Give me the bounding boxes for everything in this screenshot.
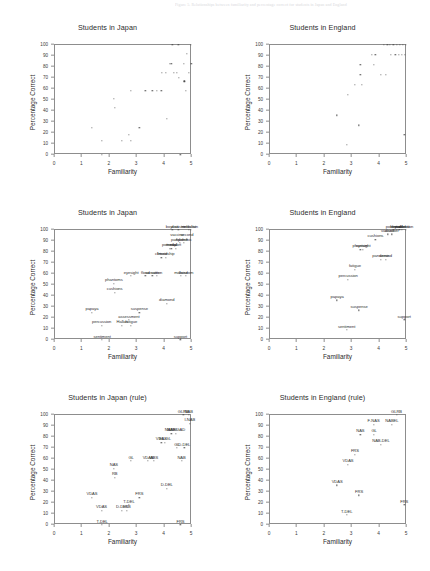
data-point bbox=[375, 54, 376, 55]
data-point bbox=[354, 84, 355, 85]
data-point bbox=[113, 468, 114, 469]
data-point bbox=[152, 276, 153, 277]
x-tick-label: 2 bbox=[322, 531, 325, 536]
point-label: NAB bbox=[177, 455, 185, 460]
data-point bbox=[139, 497, 140, 498]
data-point bbox=[188, 72, 189, 73]
data-point bbox=[156, 91, 157, 92]
point-label: NAB/GAD bbox=[167, 427, 185, 432]
y-axis: 0102030405060708090100 bbox=[28, 229, 54, 339]
x-axis-label: Familiarity bbox=[54, 168, 191, 175]
point-label: EL-GL bbox=[159, 436, 171, 441]
data-point bbox=[402, 44, 403, 45]
x-tick-mark bbox=[163, 339, 164, 342]
x-tick-mark bbox=[269, 154, 270, 157]
data-point bbox=[148, 461, 149, 462]
x-tick-label: 5 bbox=[190, 346, 193, 351]
data-point bbox=[401, 54, 402, 55]
y-tick-label: 80 bbox=[258, 64, 263, 69]
data-point bbox=[399, 44, 400, 45]
data-point bbox=[395, 54, 396, 55]
data-point bbox=[380, 74, 381, 75]
y-axis-label-holder: Percentage Correct bbox=[223, 414, 237, 524]
x-tick-label: 0 bbox=[268, 346, 271, 351]
y-axis: 0102030405060708090100 bbox=[243, 414, 269, 524]
x-tick-mark bbox=[163, 524, 164, 527]
x-axis-label: Familiarity bbox=[269, 168, 406, 175]
x-tick-label: 5 bbox=[405, 161, 408, 166]
data-point bbox=[180, 276, 181, 277]
data-point bbox=[183, 243, 184, 244]
x-tick-label: 0 bbox=[268, 531, 271, 536]
y-tick-label: 0 bbox=[45, 152, 48, 157]
y-tick-label: 80 bbox=[43, 249, 48, 254]
data-point bbox=[375, 239, 376, 240]
point-label: I-NAB bbox=[184, 417, 195, 422]
data-point bbox=[145, 276, 146, 277]
y-tick-label: 100 bbox=[40, 227, 48, 232]
data-point bbox=[360, 64, 361, 65]
plot-area: papayasentimentpercussionfatiguesuspense… bbox=[269, 229, 406, 339]
x-tick-mark bbox=[269, 339, 270, 342]
plot-area bbox=[54, 44, 191, 154]
x-tick-mark bbox=[81, 339, 82, 342]
point-label: fatigue bbox=[349, 263, 361, 268]
x-tick-label: 5 bbox=[405, 346, 408, 351]
chart-panel-japan-plain: Students in JapanPercentage Correct01020… bbox=[0, 18, 215, 203]
chart-title: Students in England (rule) bbox=[215, 393, 430, 402]
data-point bbox=[404, 135, 405, 136]
y-tick-label: 20 bbox=[43, 130, 48, 135]
x-tick-mark bbox=[54, 154, 55, 157]
x-tick-label: 3 bbox=[135, 346, 138, 351]
point-label: F-NAS bbox=[368, 418, 380, 423]
data-point bbox=[185, 276, 186, 277]
point-label: phantoms bbox=[105, 277, 123, 282]
data-point bbox=[91, 312, 92, 313]
point-label: fatigue bbox=[125, 319, 137, 324]
x-tick-label: 5 bbox=[190, 161, 193, 166]
data-point bbox=[166, 488, 167, 489]
x-tick-label: 0 bbox=[53, 346, 56, 351]
figure-page: Figure 5. Relationships between familiar… bbox=[0, 0, 430, 571]
x-tick-label: 3 bbox=[135, 161, 138, 166]
chart-panel-england-words: Students in EnglandPercentage Correct010… bbox=[215, 203, 430, 388]
y-tick-label: 0 bbox=[260, 152, 263, 157]
data-point bbox=[161, 72, 162, 73]
point-label: GL bbox=[128, 455, 133, 460]
y-tick-label: 50 bbox=[258, 467, 263, 472]
y-tick-label: 0 bbox=[45, 522, 48, 527]
x-tick-mark bbox=[81, 524, 82, 527]
data-point bbox=[139, 127, 140, 128]
x-tick-mark bbox=[378, 154, 379, 157]
y-tick-label: 30 bbox=[258, 119, 263, 124]
x-tick-mark bbox=[406, 339, 407, 342]
chart-title: Students in England bbox=[215, 23, 430, 32]
data-point bbox=[101, 325, 102, 326]
data-point bbox=[176, 72, 177, 73]
data-point bbox=[371, 54, 372, 55]
y-tick-label: 20 bbox=[43, 500, 48, 505]
data-point bbox=[347, 464, 348, 465]
x-tick-label: 4 bbox=[377, 346, 380, 351]
plot-area: VDAST-DELVDASFRSFRSNASF-NASGLNAB-DELNABE… bbox=[269, 414, 406, 524]
data-point bbox=[131, 91, 132, 92]
y-tick-label: 30 bbox=[43, 489, 48, 494]
y-axis: 0102030405060708090100 bbox=[243, 44, 269, 154]
data-point bbox=[189, 423, 190, 424]
point-label: second bbox=[181, 232, 194, 237]
point-label: freedom bbox=[179, 270, 194, 275]
y-tick-label: 30 bbox=[258, 489, 263, 494]
x-tick-label: 5 bbox=[190, 531, 193, 536]
x-tick-mark bbox=[351, 339, 352, 342]
data-point bbox=[121, 325, 122, 326]
y-tick-label: 0 bbox=[260, 522, 263, 527]
data-point bbox=[114, 477, 115, 478]
data-point bbox=[172, 44, 173, 45]
y-tick-label: 70 bbox=[43, 75, 48, 80]
data-point bbox=[393, 44, 394, 45]
y-tick-label: 80 bbox=[43, 434, 48, 439]
data-point bbox=[172, 229, 173, 230]
data-point bbox=[358, 125, 359, 126]
chart-panel-england-plain: Students in EnglandPercentage Correct010… bbox=[215, 18, 430, 203]
point-label: cushions bbox=[107, 286, 123, 291]
